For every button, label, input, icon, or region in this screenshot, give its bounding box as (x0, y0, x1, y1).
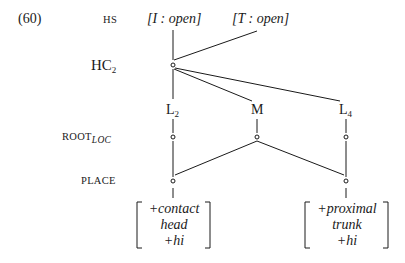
segment-l4: L4 (339, 102, 352, 119)
segment-sub: 4 (348, 109, 353, 119)
hc-main: HC (91, 57, 112, 73)
matrix-line: trunk (307, 217, 387, 233)
segment-sub: 2 (175, 109, 180, 119)
tier-label-hc: HC2 (91, 57, 116, 75)
matrix-line: +contact (140, 201, 208, 217)
root-sub: LOC (92, 135, 111, 145)
segment-main: L (339, 102, 348, 117)
hc-sub: 2 (112, 65, 117, 75)
matrix-line: +proximal (307, 201, 387, 217)
matrix-line: +hi (307, 233, 387, 249)
example-number: (60) (18, 11, 41, 27)
segment-m: M (251, 102, 263, 118)
hs-feature-thumb: [T : open] (232, 11, 289, 27)
tier-label-root: ROOTLOC (62, 131, 111, 145)
segment-l2: L2 (166, 102, 179, 119)
segment-main: L (166, 102, 175, 117)
segment-main: M (251, 102, 263, 117)
tier-label-hs: HS (103, 14, 117, 25)
feature-matrix-left: +contact head +hi (140, 201, 208, 249)
hs-feature-interior: [I : open] (147, 11, 201, 27)
tier-label-place: PLACE (81, 175, 116, 186)
matrix-line: +hi (140, 233, 208, 249)
matrix-line: head (140, 217, 208, 233)
root-main: ROOT (62, 131, 92, 142)
feature-matrix-right: +proximal trunk +hi (307, 201, 387, 249)
